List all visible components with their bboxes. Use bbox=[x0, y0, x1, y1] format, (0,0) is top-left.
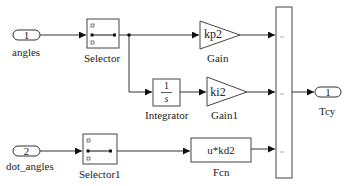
mux-block[interactable] bbox=[276, 7, 292, 178]
selector1-label: Selector1 bbox=[79, 168, 121, 180]
fcn-expression: u*kd2 bbox=[191, 144, 251, 156]
integrator-denominator: s bbox=[153, 93, 180, 105]
fcn-label: Fcn bbox=[213, 166, 230, 178]
outport-1-number: 1 bbox=[315, 86, 341, 98]
selector-block[interactable] bbox=[87, 19, 119, 48]
inport-2-label: dot_angles bbox=[6, 160, 54, 172]
inport-1-label: angles bbox=[12, 46, 40, 58]
integrator-numerator: 1 bbox=[153, 80, 180, 92]
gain-label: Gain bbox=[207, 52, 228, 64]
gain1-label: Gain1 bbox=[211, 109, 238, 121]
branch-point bbox=[127, 33, 131, 37]
gain1-value: ki2 bbox=[206, 86, 230, 98]
selector-label: Selector bbox=[84, 52, 120, 64]
line-branch-integrator bbox=[129, 35, 152, 92]
selector1-block[interactable] bbox=[83, 134, 117, 164]
outport-1-label: Tcy bbox=[319, 105, 335, 117]
gain-value: kp2 bbox=[199, 28, 227, 40]
inport-2-number: 2 bbox=[13, 145, 40, 157]
inport-1-number: 1 bbox=[13, 29, 40, 41]
integrator-label: Integrator bbox=[145, 109, 188, 121]
